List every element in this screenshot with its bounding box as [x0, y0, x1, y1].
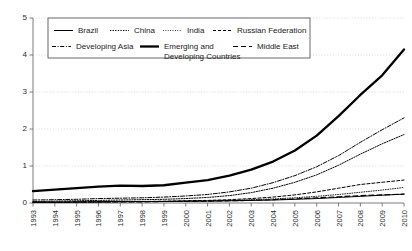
x-tick-label-2006: 2006	[313, 210, 322, 227]
y-tick-label-5: 5	[23, 13, 28, 22]
x-tick-label-1999: 1999	[160, 210, 169, 227]
series-line-china	[33, 135, 404, 202]
x-tick-label-2009: 2009	[378, 210, 387, 227]
x-tick-label-1998: 1998	[138, 210, 147, 227]
x-tick-label-2003: 2003	[247, 210, 256, 227]
x-tick-label-1997: 1997	[116, 210, 125, 227]
y-tick-label-1: 1	[23, 161, 28, 170]
legend-label-india: India	[187, 26, 205, 35]
x-tick-label-2005: 2005	[291, 210, 300, 227]
line-chart: 0123451993199419951996199719981999200020…	[0, 0, 412, 251]
legend-label-brazil: Brazil	[78, 26, 98, 35]
legend-label-russian-federation: Russian Federation	[237, 26, 306, 35]
x-tick-label-1995: 1995	[73, 210, 82, 227]
legend-label-china: China	[134, 26, 155, 35]
x-tick-label-2007: 2007	[335, 210, 344, 227]
series-line-emerging-and-developing-countries	[33, 49, 404, 191]
y-tick-label-0: 0	[23, 198, 28, 207]
legend-label-developing-asia: Developing Asia	[76, 42, 134, 51]
x-tick-label-2000: 2000	[182, 210, 191, 227]
x-tick-label-2008: 2008	[356, 210, 365, 227]
y-tick-label-2: 2	[23, 124, 28, 133]
x-tick-label-2010: 2010	[400, 210, 409, 227]
x-tick-label-2001: 2001	[204, 210, 213, 227]
legend-label-developing-countries: Developing Countries	[164, 52, 241, 61]
chart-canvas: 0123451993199419951996199719981999200020…	[0, 0, 412, 251]
legend-label-middle-east: Middle East	[257, 42, 300, 51]
x-tick-label-1993: 1993	[29, 210, 38, 227]
x-tick-label-2002: 2002	[225, 210, 234, 227]
y-tick-label-3: 3	[23, 87, 28, 96]
x-tick-label-1994: 1994	[51, 210, 60, 227]
x-tick-label-1996: 1996	[94, 210, 103, 227]
x-tick-label-2004: 2004	[269, 210, 278, 227]
y-tick-label-4: 4	[23, 50, 28, 59]
legend-label-emerging-and: Emerging and	[164, 42, 214, 51]
